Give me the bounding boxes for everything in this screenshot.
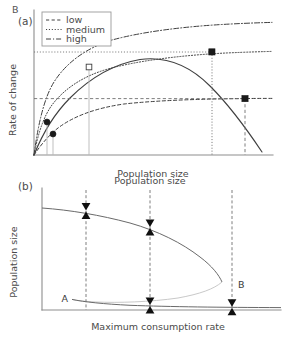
panel-b-xlabel: Maximum consumption rate [91,321,225,332]
panel-a-curve-production [34,59,262,155]
panel-b-arrow-down-right-lower [228,299,237,307]
panel-a-marker-low-upper [242,96,248,102]
panel-a-marker-unstable [86,64,92,70]
panel-a-marker-medium-upper [209,49,215,55]
panel-a-marker-medium-lower [50,131,56,137]
panel-a-legend: low medium high [42,12,111,46]
panel-b-arrow-up-right-lower [228,308,237,316]
panel-a-marker-high-stable [44,119,50,125]
panel-b-fold-label-a: A [62,293,69,304]
bistability-figure: B (a) Rate of change [0,0,287,340]
legend-label-high: high [66,33,87,44]
panel-a-ylabel: Rate of change [7,64,18,136]
panel-b-ylabel: Population size [8,226,19,298]
panel-b-arrow-up-middle-upper [146,228,155,236]
figure-label-b: B [12,4,19,15]
panel-b-arrow-down-left-upper [82,203,91,211]
panel-b-arrow-down-middle-upper [146,220,155,228]
panel-b-label: (b) [18,180,33,192]
panel-b-fold-label-b: B [238,279,245,290]
panel-a: (a) Rate of change [7,10,273,179]
panel-b-upper-stable-branch [42,208,222,282]
panel-a-label: (a) [18,15,33,27]
figure-root: B (a) Rate of change [0,0,287,340]
panel-a-curve-low [34,98,272,155]
panel-b-lower-stable-branch [72,299,281,307]
panel-b-title: Population size [114,175,186,186]
panel-a-curve-medium [34,51,272,155]
panel-b: (b) Population size Population size [8,175,281,332]
